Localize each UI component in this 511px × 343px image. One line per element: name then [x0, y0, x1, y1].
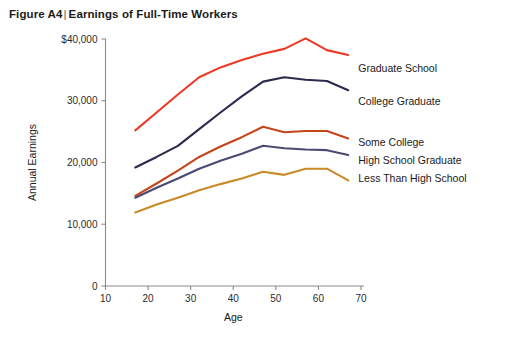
data-line — [135, 146, 348, 198]
series-label: Some College — [358, 136, 424, 148]
data-line — [135, 169, 348, 213]
x-tick-label: 60 — [313, 293, 325, 304]
data-line — [135, 38, 348, 130]
x-tick-label: 30 — [185, 293, 197, 304]
x-tick-label: 50 — [270, 293, 282, 304]
x-tick-label: 20 — [143, 293, 155, 304]
y-tick-label: 20,000 — [67, 157, 98, 168]
figure-container: Figure A4|Earnings of Full-Time Workers … — [0, 0, 511, 343]
series-label: Graduate School — [358, 62, 437, 74]
x-tick-label: 10 — [100, 293, 112, 304]
line-chart: 010,00020,00030,000$40,00010203040506070… — [0, 0, 511, 343]
series-label: Less Than High School — [358, 172, 466, 184]
y-tick-label: 0 — [92, 281, 98, 292]
y-tick-label: $40,000 — [61, 34, 98, 45]
data-line — [135, 127, 348, 196]
x-axis-title: Age — [224, 311, 243, 323]
y-axis-title: Annual Earnings — [26, 124, 38, 201]
x-tick-label: 70 — [355, 293, 367, 304]
y-tick-label: 10,000 — [67, 219, 98, 230]
y-tick-label: 30,000 — [67, 95, 98, 106]
series-label: High School Graduate — [358, 154, 461, 166]
x-tick-label: 40 — [228, 293, 240, 304]
series-label: College Graduate — [358, 95, 440, 107]
